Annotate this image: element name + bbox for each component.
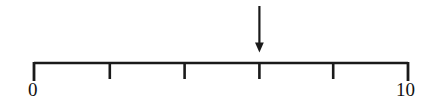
- arrow-head-icon: [255, 43, 264, 53]
- axis-label-min: 0: [28, 80, 38, 99]
- number-line-graphic: [0, 0, 446, 105]
- value-marker-arrow: [255, 6, 264, 53]
- axis-label-max: 10: [396, 80, 415, 99]
- number-line-figure: 0 10: [0, 0, 446, 105]
